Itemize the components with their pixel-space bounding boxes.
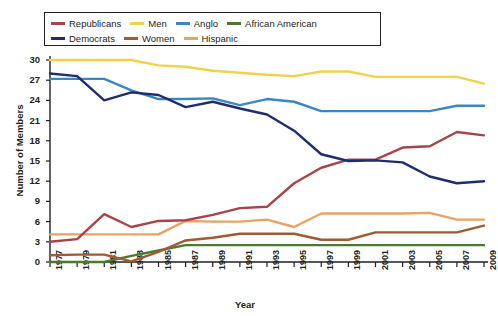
series-line-women bbox=[50, 226, 484, 262]
series-line-democrats bbox=[50, 73, 484, 183]
series-line-men bbox=[50, 60, 484, 84]
series-line-african-american bbox=[50, 245, 484, 262]
series-line-republicans bbox=[50, 132, 484, 242]
series-line-hispanic bbox=[50, 213, 484, 235]
series-line-anglo bbox=[50, 79, 484, 111]
